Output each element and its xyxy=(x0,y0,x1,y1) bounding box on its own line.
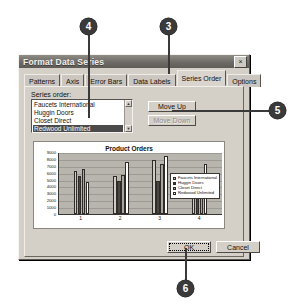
chart-y-tick: 6000 xyxy=(47,172,56,176)
format-data-series-dialog: Format Data Series × Patterns Axis Error… xyxy=(18,54,250,260)
chart-y-tick: 2000 xyxy=(47,199,56,203)
tab-patterns-label: Patterns xyxy=(29,78,55,85)
close-icon[interactable]: × xyxy=(234,56,247,68)
chart-x-tick: 2 xyxy=(101,215,141,221)
chart-y-tick: 9000 xyxy=(47,151,56,155)
cancel-label: Cancel xyxy=(227,244,249,251)
move-up-label: Move Up xyxy=(158,103,186,110)
list-item[interactable]: Closet Direct xyxy=(33,117,124,125)
tab-strip: Patterns Axis Error Bars Data Labels Ser… xyxy=(24,73,244,86)
chart-bar xyxy=(117,181,121,214)
tab-series-order[interactable]: Series Order xyxy=(177,70,227,86)
chart-y-tick: 1000 xyxy=(47,206,56,210)
chart-x-tick: 1 xyxy=(61,215,101,221)
chart-bar xyxy=(152,160,156,214)
callout-leader-3 xyxy=(168,32,170,74)
callout-leader-4 xyxy=(88,32,90,118)
callout-leader-5 xyxy=(172,110,270,112)
chart-title: Product Orders xyxy=(36,145,222,152)
callout-6-number: 6 xyxy=(183,283,189,294)
chart-y-tick: 7000 xyxy=(47,165,56,169)
tab-page-series-order: Series order: Faucets International Hugg… xyxy=(24,86,244,257)
chart-legend: Faucets InternationalHuggin DoorsCloset … xyxy=(170,173,220,199)
callout-3-number: 3 xyxy=(166,21,172,32)
chart-bar xyxy=(121,175,125,214)
series-order-listbox[interactable]: Faucets International Huggin Doors Close… xyxy=(31,99,133,133)
callout-6: 6 xyxy=(177,280,194,297)
dialog-title: Format Data Series xyxy=(23,57,234,67)
scroll-up-icon[interactable]: ▲ xyxy=(125,100,132,107)
scroll-down-glyph: ▼ xyxy=(127,127,131,131)
callout-3: 3 xyxy=(160,18,177,35)
chart-category-group xyxy=(101,153,140,214)
move-down-button: Move Down xyxy=(148,115,196,126)
chart-y-tick: 8000 xyxy=(47,158,56,162)
chart-y-tick: 3000 xyxy=(47,192,56,196)
chart-legend-item: Redwood Unlimited xyxy=(173,191,217,196)
chart-x-tick: 4 xyxy=(180,215,220,221)
close-icon-glyph: × xyxy=(238,58,242,65)
chart-legend-swatch xyxy=(173,182,177,186)
chart-bar xyxy=(125,162,129,214)
ok-button[interactable]: OK xyxy=(167,241,211,253)
callout-4: 4 xyxy=(80,18,97,35)
tab-options-label: Options xyxy=(232,78,256,85)
list-item[interactable]: Huggin Doors xyxy=(33,109,124,117)
chart-bar xyxy=(164,156,168,214)
tab-data-labels-label: Data Labels xyxy=(133,78,170,85)
chart-bar xyxy=(78,176,82,214)
dialog-titlebar[interactable]: Format Data Series × xyxy=(19,55,249,68)
chart-y-tick: 0 xyxy=(54,213,56,217)
chart-bar xyxy=(113,176,117,214)
list-item[interactable]: Redwood Unlimited xyxy=(33,125,123,132)
callout-leader-6 xyxy=(185,248,187,280)
callout-5: 5 xyxy=(269,102,286,119)
list-item[interactable]: Faucets International xyxy=(33,101,124,109)
scroll-down-icon[interactable]: ▼ xyxy=(125,125,132,132)
chart-category-group xyxy=(62,153,101,214)
series-order-label: Series order: xyxy=(31,91,71,98)
chart-legend-swatch xyxy=(173,187,177,191)
chart-bar xyxy=(86,182,90,214)
tab-axis-label: Axis xyxy=(66,78,79,85)
scroll-up-glyph: ▲ xyxy=(127,102,131,106)
chart-x-axis: 1234 xyxy=(58,215,222,221)
move-down-label: Move Down xyxy=(154,117,191,124)
chart-y-tick: 4000 xyxy=(47,185,56,189)
callout-4-number: 4 xyxy=(86,21,92,32)
tab-series-order-label: Series Order xyxy=(182,75,222,82)
chart-legend-swatch xyxy=(173,177,177,181)
tab-error-bars-label: Error Bars xyxy=(90,78,122,85)
cancel-button[interactable]: Cancel xyxy=(216,241,260,253)
chart-legend-label: Redwood Unlimited xyxy=(178,191,214,196)
chart-preview: Product Orders 9000800070006000500040003… xyxy=(33,141,225,229)
callout-5-number: 5 xyxy=(275,105,281,116)
chart-plot-wrapper: 9000800070006000500040003000200010000 Fa… xyxy=(36,153,222,215)
chart-y-tick: 5000 xyxy=(47,179,56,183)
chart-legend-swatch xyxy=(173,192,177,196)
chart-bar xyxy=(160,164,164,214)
chart-y-axis: 9000800070006000500040003000200010000 xyxy=(36,153,58,215)
series-order-list: Faucets International Huggin Doors Close… xyxy=(32,100,124,132)
chart-bar xyxy=(156,181,160,214)
chart-bar xyxy=(82,169,86,214)
series-order-scrollbar[interactable]: ▲ ▼ xyxy=(124,100,132,132)
chart-bar xyxy=(74,171,78,214)
chart-x-tick: 3 xyxy=(140,215,180,221)
